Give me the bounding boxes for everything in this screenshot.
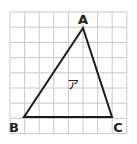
grid-triangle-diagram: A B C ア [0,0,137,144]
vertex-label-a: A [78,12,88,27]
diagram-canvas: A B C ア [0,0,137,144]
vertex-label-b: B [9,120,19,135]
grid [10,12,127,134]
region-label: ア [67,78,79,92]
vertex-label-c: C [113,120,123,135]
